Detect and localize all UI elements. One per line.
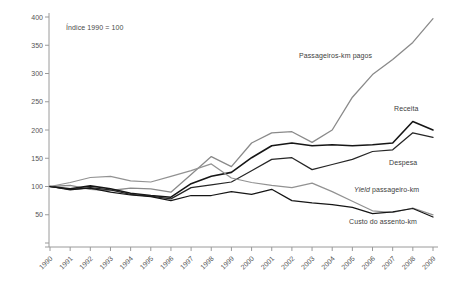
y-tick-label: 400 [31, 14, 43, 21]
x-tick-label: 2005 [340, 255, 356, 271]
x-tick-label: 2000 [239, 255, 255, 271]
y-tick-label: 350 [31, 42, 43, 49]
x-tick-label: 1992 [78, 255, 94, 271]
y-tick-label: 50 [35, 211, 43, 218]
x-tick-label: 1999 [219, 255, 235, 271]
x-tick-label: 1991 [58, 255, 74, 271]
axis-note: Índice 1990 = 100 [66, 24, 124, 31]
series-label-despesa: Despesa [389, 159, 417, 166]
series-label-yield-italic: Yield [354, 186, 370, 193]
series-label-yield-rest: passageiro-km [370, 186, 419, 193]
x-tick-label: 2009 [421, 255, 437, 271]
series-label-yield-passageiro-km: Yield passageiro-km [354, 186, 419, 193]
x-tick-label: 1997 [179, 255, 195, 271]
y-tick-label: 200 [31, 127, 43, 134]
x-tick-label: 2003 [300, 255, 316, 271]
x-tick-label: 2001 [259, 255, 275, 271]
x-tick-label: 2004 [320, 255, 336, 271]
x-tick-label: 1998 [199, 255, 215, 271]
x-tick-label: 2006 [360, 255, 376, 271]
y-tick-label: 150 [31, 155, 43, 162]
x-tick-label: 1993 [98, 255, 114, 271]
x-tick-label: 2008 [401, 255, 417, 271]
x-tick-label: 2007 [380, 255, 396, 271]
series-label-passageiros-km-pagos: Passageiros-km pagos [299, 52, 372, 59]
line-chart-figure: 5010015020025030035040019901991199219931… [0, 0, 464, 281]
x-tick-label: 1995 [139, 255, 155, 271]
series-label-receita: Receita [394, 105, 418, 112]
x-tick-label: 1994 [118, 255, 134, 271]
series-line-passageiros-km-pagos [50, 19, 433, 193]
line-chart-canvas: 5010015020025030035040019901991199219931… [0, 0, 464, 281]
x-tick-label: 1996 [159, 255, 175, 271]
y-tick-label: 300 [31, 70, 43, 77]
x-tick-label: 1990 [38, 255, 54, 271]
y-tick-label: 100 [31, 183, 43, 190]
series-label-custo-do-assento-km: Custo do assento-km [349, 218, 417, 225]
y-tick-label: 250 [31, 98, 43, 105]
x-tick-label: 2002 [280, 255, 296, 271]
